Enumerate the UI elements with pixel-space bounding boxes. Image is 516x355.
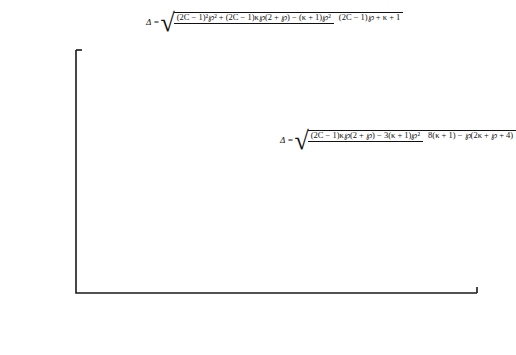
- radical-sign-icon: √: [294, 130, 308, 151]
- axis-spines: [76, 50, 477, 293]
- upper-formula-numerator: (2C − 1)²℘² + (2C − 1)κ℘(2 + ℘) − (κ + 1…: [174, 12, 334, 24]
- lower-formula-lhs: Δ =: [280, 135, 294, 145]
- upper-curve-formula: Δ = √ (2C − 1)²℘² + (2C − 1)κ℘(2 + ℘) − …: [146, 12, 403, 33]
- upper-formula-denominator: (2C − 1)℘ + κ + 1: [336, 11, 404, 22]
- lower-curve-formula: Δ = √ (2C − 1)κ℘(2 + ℘) − 3(κ + 1)℘² 8(κ…: [280, 130, 516, 151]
- lower-formula-denominator: 8(κ + 1) − ℘(2κ + ℘ + 4): [425, 129, 516, 140]
- upper-formula-radical: √ (2C − 1)²℘² + (2C − 1)κ℘(2 + ℘) − (κ +…: [160, 12, 403, 33]
- lower-formula-numerator: (2C − 1)κ℘(2 + ℘) − 3(κ + 1)℘²: [308, 130, 423, 142]
- axes-group: [76, 50, 477, 293]
- upper-formula-lhs: Δ =: [146, 17, 160, 27]
- lower-formula-radical: √ (2C − 1)κ℘(2 + ℘) − 3(κ + 1)℘² 8(κ + 1…: [294, 130, 516, 151]
- radical-sign-icon: √: [160, 12, 174, 33]
